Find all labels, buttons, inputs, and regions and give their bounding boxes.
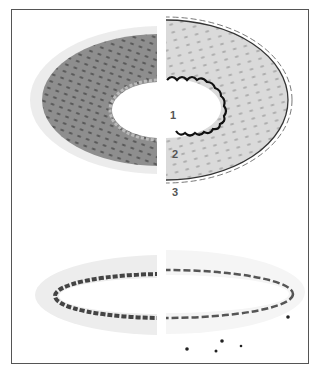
- label-1: 1: [170, 109, 176, 121]
- label-3: 3: [172, 186, 178, 198]
- label-2: 2: [172, 148, 178, 160]
- histology-illustration: [0, 0, 324, 374]
